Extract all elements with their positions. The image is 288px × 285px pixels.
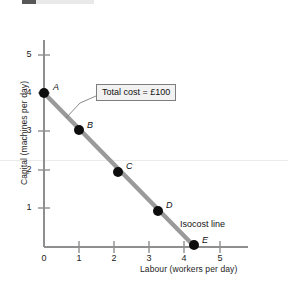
point-label-c: C (126, 161, 133, 171)
x-tick-label-0: 0 (37, 253, 51, 263)
point-label-e: E (202, 235, 208, 245)
data-point-b (74, 125, 84, 135)
y-tick-label-3: 3 (22, 125, 36, 135)
data-point-d (153, 206, 163, 216)
isocost-plot (0, 0, 288, 285)
x-tick-label-2: 2 (107, 253, 121, 263)
chart-figure: Capital (machines per day) Labour (worke… (0, 0, 288, 285)
y-tick-label-2: 2 (22, 164, 36, 174)
data-point-e (189, 240, 199, 250)
total-cost-callout: Total cost = £100 (96, 84, 176, 101)
isocost-line-note: Isocost line (180, 219, 225, 229)
point-label-b: B (87, 120, 93, 130)
data-point-c (113, 167, 123, 177)
x-axis-title: Labour (workers per day) (140, 264, 237, 274)
point-label-d: D (166, 200, 173, 210)
y-tick-label-1: 1 (22, 202, 36, 212)
y-tick-label-4: 4 (22, 87, 36, 97)
x-tick-label-3: 3 (142, 253, 156, 263)
x-tick-label-5: 5 (213, 253, 227, 263)
data-point-a (39, 88, 49, 98)
x-tick-label-1: 1 (72, 253, 86, 263)
callout-leader-line (66, 96, 96, 118)
y-tick-label-5: 5 (22, 49, 36, 59)
x-tick-label-4: 4 (177, 253, 191, 263)
point-label-a: A (53, 82, 59, 92)
